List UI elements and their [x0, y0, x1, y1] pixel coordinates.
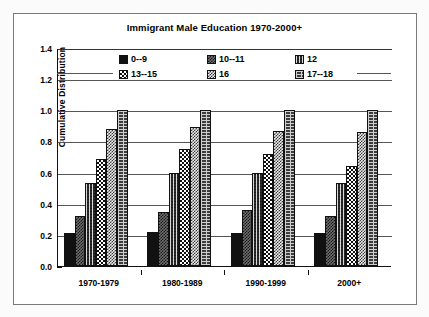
- bar-12-1980-1989: [169, 173, 180, 266]
- x-tick-mark: [141, 270, 142, 275]
- bar-0-9-1990-1999: [231, 233, 242, 266]
- chart-legend: 0--910--111213--151617--18: [57, 54, 391, 88]
- legend-label: 13--15: [131, 69, 157, 79]
- legend-swatch: [119, 70, 128, 79]
- y-tick-label: 0.8: [40, 137, 52, 147]
- legend-label: 12: [307, 54, 317, 64]
- legend-item-12: 12: [295, 54, 317, 64]
- x-axis-category-labels: 1970-19791980-19891990-19992000+: [57, 270, 391, 290]
- bar-12-1990-1999: [252, 173, 263, 266]
- legend-item-13-15: 13--15: [119, 69, 157, 79]
- legend-label: 17--18: [307, 69, 333, 79]
- x-tick-label: 1990-1999: [224, 278, 308, 288]
- y-tick-label: 0.2: [40, 231, 52, 241]
- bar-13-15-2000+: [346, 166, 357, 266]
- bar-10-11-1980-1989: [158, 212, 169, 267]
- bar-17-18-1990-1999: [284, 110, 295, 266]
- bar-16-2000+: [357, 132, 368, 266]
- bar-17-18-1970-1979: [117, 110, 128, 266]
- bar-10-11-1970-1979: [75, 216, 86, 266]
- bar-13-15-1980-1989: [179, 149, 190, 266]
- legend-item-0-9: 0--9: [119, 54, 147, 64]
- y-tick-label: 0.4: [40, 200, 52, 210]
- legend-label: 10--11: [219, 54, 245, 64]
- y-tick-label: 0.0: [40, 262, 52, 272]
- x-tick-mark: [224, 270, 225, 275]
- bar-16-1970-1979: [106, 129, 117, 266]
- chart-page: Immigrant Male Education 1970-2000+ 0.00…: [0, 0, 429, 317]
- x-tick-label: 2000+: [308, 278, 392, 288]
- legend-item-10-11: 10--11: [207, 54, 245, 64]
- bar-13-15-1990-1999: [263, 154, 274, 266]
- y-tick-label: 0.6: [40, 169, 52, 179]
- legend-gridline-segment: [357, 73, 391, 74]
- legend-gridline-segment: [57, 73, 113, 74]
- bar-17-18-1980-1989: [200, 110, 211, 266]
- x-tick-label: 1970-1979: [57, 278, 141, 288]
- bar-10-11-1990-1999: [242, 210, 253, 266]
- bar-0-9-2000+: [314, 233, 325, 266]
- y-tick-mark: [57, 267, 62, 268]
- bar-0-9-1980-1989: [147, 232, 158, 266]
- y-tick-label: 1.4: [40, 44, 52, 54]
- bar-10-11-2000+: [325, 216, 336, 266]
- legend-label: 0--9: [131, 54, 147, 64]
- bar-0-9-1970-1979: [64, 233, 75, 266]
- legend-swatch: [207, 55, 216, 64]
- legend-label: 16: [219, 69, 229, 79]
- bar-16-1990-1999: [273, 131, 284, 266]
- legend-swatch: [295, 55, 304, 64]
- legend-item-17-18: 17--18: [295, 69, 333, 79]
- x-tick-label: 1980-1989: [141, 278, 225, 288]
- legend-swatch: [295, 70, 304, 79]
- bar-12-2000+: [336, 183, 347, 266]
- y-tick-label: 1.0: [40, 106, 52, 116]
- bar-13-15-1970-1979: [96, 159, 107, 266]
- legend-swatch: [119, 55, 128, 64]
- x-tick-mark: [308, 270, 309, 275]
- bar-16-1980-1989: [190, 127, 201, 266]
- bar-12-1970-1979: [85, 183, 96, 266]
- legend-swatch: [207, 70, 216, 79]
- legend-item-16: 16: [207, 69, 229, 79]
- bar-17-18-2000+: [367, 110, 378, 266]
- y-tick-label: 1.2: [40, 75, 52, 85]
- y-axis-tick-labels: 0.00.20.40.60.81.01.21.4: [18, 49, 52, 267]
